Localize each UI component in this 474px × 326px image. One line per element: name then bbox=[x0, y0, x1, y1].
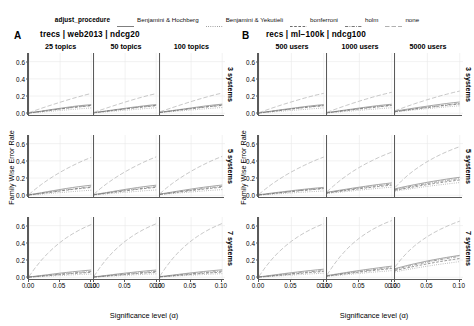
y-axis-ticks: 0.00.20.40.6 bbox=[238, 135, 258, 197]
facet-row-label: 5 systems bbox=[225, 149, 234, 184]
facet-column-label: 50 topics bbox=[93, 42, 158, 53]
facet-plot-area bbox=[94, 135, 159, 197]
x-axis-line bbox=[159, 279, 224, 280]
legend-line-key-icon bbox=[206, 16, 223, 23]
facet-cell[interactable] bbox=[28, 217, 93, 279]
x-axis-spacer-right bbox=[462, 279, 474, 293]
facet-column-label: 100 topics bbox=[159, 42, 224, 53]
facet-cell[interactable] bbox=[28, 53, 93, 115]
x-axis-row bbox=[4, 115, 236, 129]
facet-cell[interactable] bbox=[93, 53, 158, 115]
x-axis-cell bbox=[93, 197, 158, 211]
legend-item[interactable]: none bbox=[385, 16, 419, 23]
x-axis-line bbox=[28, 197, 93, 198]
y-axis-ticks: 0.00.20.40.6 bbox=[4, 135, 28, 197]
facet-row-strip: 7 systems bbox=[462, 217, 474, 279]
x-tick-label: 0.00 bbox=[320, 282, 332, 289]
facet-panel bbox=[394, 217, 463, 279]
legend-item[interactable]: Benjamini & Yekutieli bbox=[206, 16, 283, 23]
facet-panel bbox=[159, 53, 225, 115]
legend-item-label: Benjamini & Hochberg bbox=[137, 16, 199, 23]
facet-cell[interactable] bbox=[258, 135, 326, 197]
facet-plot-area bbox=[395, 53, 463, 115]
y-tick-label: 0.6 bbox=[246, 58, 255, 65]
x-tick-label: 0.00 bbox=[252, 282, 264, 289]
x-axis-cell: 0.000.050.10 bbox=[394, 279, 462, 293]
x-axis-cell: 0.000.050.10 bbox=[326, 279, 394, 293]
facet-row: 0.00.20.40.63 systems bbox=[238, 53, 474, 115]
facet-cell[interactable] bbox=[326, 135, 394, 197]
facet-panel bbox=[326, 53, 395, 115]
facet-panel bbox=[394, 53, 463, 115]
facet-row-strip-box: 3 systems bbox=[224, 53, 236, 115]
x-axis-cell bbox=[28, 115, 93, 129]
facet-row-strip: 3 systems bbox=[462, 53, 474, 115]
x-axis-spacer bbox=[4, 197, 28, 211]
header-spacer bbox=[238, 42, 258, 53]
facet-row-label: 7 systems bbox=[225, 231, 234, 266]
x-axis-cell bbox=[159, 197, 224, 211]
facet-cell[interactable] bbox=[326, 53, 394, 115]
facet-panel bbox=[258, 53, 327, 115]
facet-plot-area bbox=[94, 217, 159, 279]
x-axis-spacer bbox=[238, 115, 258, 129]
x-axis-row: 0.000.050.100.000.050.100.000.050.10 bbox=[4, 279, 236, 293]
x-axis-spacer-right bbox=[224, 115, 236, 129]
facet-cell[interactable] bbox=[394, 135, 462, 197]
y-axis-ticks: 0.00.20.40.6 bbox=[4, 53, 28, 115]
y-tick-label: 0.6 bbox=[246, 140, 255, 147]
facet-row-label: 3 systems bbox=[464, 67, 473, 102]
facet-row-strip-box: 5 systems bbox=[224, 135, 236, 197]
facet-cell[interactable] bbox=[159, 217, 224, 279]
facet-plot-area bbox=[160, 53, 225, 115]
y-tick-label: 0.4 bbox=[16, 157, 25, 164]
legend-item-label: Benjamini & Yekutieli bbox=[226, 16, 283, 23]
x-axis-line bbox=[93, 279, 158, 280]
facet-row-strip-box: 7 systems bbox=[224, 217, 236, 279]
facet-cell[interactable] bbox=[258, 217, 326, 279]
facet-cell[interactable] bbox=[326, 217, 394, 279]
y-tick-label: 0.4 bbox=[16, 239, 25, 246]
y-tick-label: 0.4 bbox=[246, 157, 255, 164]
facet-panel bbox=[258, 217, 327, 279]
facet-plot-area bbox=[29, 53, 94, 115]
facet-column-label: 25 topics bbox=[28, 42, 93, 53]
legend-item[interactable]: Benjamini & Hochberg bbox=[117, 16, 199, 23]
facet-row-strip: 3 systems bbox=[224, 53, 236, 115]
x-tick-label: 0.05 bbox=[352, 282, 364, 289]
x-tick-label: 0.05 bbox=[420, 282, 432, 289]
x-axis-cell bbox=[258, 197, 326, 211]
x-axis-line bbox=[326, 279, 394, 280]
facet-cell[interactable] bbox=[93, 135, 158, 197]
facet-panel bbox=[258, 135, 327, 197]
facet-cell[interactable] bbox=[159, 135, 224, 197]
x-axis-line bbox=[326, 115, 394, 116]
facet-row-strip-box: 3 systems bbox=[462, 53, 474, 115]
facet-cell[interactable] bbox=[394, 217, 462, 279]
facet-cell[interactable] bbox=[28, 135, 93, 197]
facet-column-label: 1000 users bbox=[326, 42, 394, 53]
x-axis-cell bbox=[28, 197, 93, 211]
legend-item-label: none bbox=[405, 16, 419, 23]
facet-cell[interactable] bbox=[258, 53, 326, 115]
x-axis-row bbox=[4, 197, 236, 211]
facet-row: 0.00.20.40.67 systems bbox=[4, 217, 236, 279]
facet-plot-area bbox=[160, 217, 225, 279]
y-tick-label: 0.6 bbox=[246, 222, 255, 229]
x-axis-row: 0.000.050.100.000.050.100.000.050.10 bbox=[238, 279, 474, 293]
x-axis-line bbox=[28, 115, 93, 116]
facet-plot-area bbox=[327, 217, 395, 279]
facet-cell[interactable] bbox=[159, 53, 224, 115]
facet-panel bbox=[93, 135, 159, 197]
legend-item[interactable]: holm bbox=[345, 16, 378, 23]
facet-plot-area bbox=[29, 217, 94, 279]
facet-grid-a: 25 topics50 topics100 topics0.00.20.40.6… bbox=[4, 42, 236, 293]
legend-item-label: holm bbox=[365, 16, 378, 23]
x-axis-spacer-right bbox=[224, 197, 236, 211]
facet-cell[interactable] bbox=[394, 53, 462, 115]
facet-cell[interactable] bbox=[93, 217, 158, 279]
legend-item[interactable]: bonferroni bbox=[290, 16, 338, 23]
x-tick-label: 0.00 bbox=[87, 282, 99, 289]
y-tick-label: 0.2 bbox=[16, 175, 25, 182]
y-tick-label: 0.2 bbox=[246, 257, 255, 264]
